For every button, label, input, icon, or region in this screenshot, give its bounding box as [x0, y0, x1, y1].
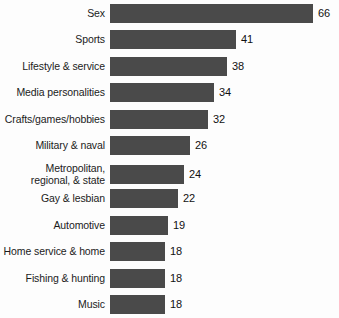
- bar-area: 66: [110, 4, 339, 23]
- bar: [110, 57, 227, 76]
- bar-row: Sex 66: [0, 4, 339, 23]
- bar-row: Lifestyle & service 38: [0, 57, 339, 76]
- bar-area: 34: [110, 83, 339, 102]
- category-label: Media personalities: [0, 87, 105, 99]
- bar-value-label: 66: [318, 4, 330, 23]
- bar: [110, 216, 168, 235]
- category-label: Military & naval: [0, 140, 105, 152]
- category-label: Automotive: [0, 220, 105, 232]
- category-label: Home service & home: [0, 246, 105, 258]
- category-label: Metropolitan, regional, & state: [0, 163, 105, 186]
- bar-row: Gay & lesbian 22: [0, 189, 339, 208]
- bar: [110, 136, 190, 155]
- bar: [110, 269, 165, 288]
- bar-area: 32: [110, 110, 339, 129]
- bar: [110, 242, 165, 261]
- bar-row: Automotive 19: [0, 216, 339, 235]
- bar-area: 38: [110, 57, 339, 76]
- bar-value-label: 26: [195, 136, 207, 155]
- bar-area: 26: [110, 136, 339, 155]
- bar-area: 41: [110, 30, 339, 49]
- bar-value-label: 34: [219, 83, 231, 102]
- category-label: Sports: [0, 34, 105, 46]
- bar-row: Fishing & hunting 18: [0, 269, 339, 288]
- bar-row: Home service & home 18: [0, 242, 339, 261]
- bar-value-label: 19: [173, 216, 185, 235]
- bar: [110, 189, 178, 208]
- bar-area: 18: [110, 269, 339, 288]
- bar: [110, 295, 165, 314]
- bar-area: 18: [110, 295, 339, 314]
- bar: [110, 30, 236, 49]
- bar-chart: Sex 66 Sports 41 Lifestyle & service 38 …: [0, 0, 339, 318]
- bar: [110, 83, 214, 102]
- category-label: Music: [0, 299, 105, 311]
- bar-row: Media personalities 34: [0, 83, 339, 102]
- category-label: Fishing & hunting: [0, 273, 105, 285]
- bar-area: 19: [110, 216, 339, 235]
- bar-value-label: 18: [170, 242, 182, 261]
- bar: [110, 110, 208, 129]
- bar-row: Sports 41: [0, 30, 339, 49]
- category-label: Sex: [0, 8, 105, 20]
- bar-row: Metropolitan, regional, & state 24: [0, 163, 339, 186]
- category-label: Gay & lesbian: [0, 193, 105, 205]
- bar-value-label: 24: [189, 165, 201, 184]
- bar: [110, 4, 313, 23]
- bar-area: 24: [110, 165, 339, 184]
- bar-area: 22: [110, 189, 339, 208]
- bar-value-label: 18: [170, 269, 182, 288]
- category-label: Crafts/games/hobbies: [0, 114, 105, 126]
- category-label: Lifestyle & service: [0, 61, 105, 73]
- bar-row: Military & naval 26: [0, 136, 339, 155]
- bar-value-label: 41: [241, 30, 253, 49]
- bar-value-label: 32: [213, 110, 225, 129]
- bar-row: Crafts/games/hobbies 32: [0, 110, 339, 129]
- bar-row: Music 18: [0, 295, 339, 314]
- bar-value-label: 22: [183, 189, 195, 208]
- bar-area: 18: [110, 242, 339, 261]
- bar: [110, 165, 184, 184]
- bar-value-label: 18: [170, 295, 182, 314]
- bar-value-label: 38: [232, 57, 244, 76]
